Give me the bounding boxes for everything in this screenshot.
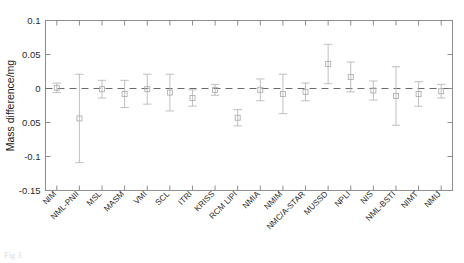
y-tick-label: 0 xyxy=(35,83,40,94)
x-tick-label: NIS xyxy=(359,189,375,205)
data-point-group xyxy=(279,74,287,113)
x-tick-label: NIM xyxy=(41,189,58,206)
data-point-group xyxy=(98,80,106,98)
data-point-group xyxy=(211,84,219,95)
y-tick-label: 0.05 xyxy=(22,117,41,128)
y-axis-title: Mass difference/mg xyxy=(4,60,16,152)
x-tick-label: NPLI xyxy=(333,190,352,209)
data-point-group xyxy=(324,44,332,83)
x-tick-label: MSL xyxy=(85,189,104,208)
x-tick-label: MUSSD xyxy=(302,189,329,216)
data-point-group xyxy=(256,79,264,101)
data-point-group xyxy=(301,83,309,101)
mass-difference-chart: 0.10.0500.05-0.1-0.15NIMNML-PNIIMSLMASMV… xyxy=(0,0,464,263)
data-point-group xyxy=(75,74,83,162)
data-point-group xyxy=(369,81,377,100)
data-point-group xyxy=(188,90,196,106)
x-tick-label: NMIA xyxy=(241,189,262,210)
data-point-group xyxy=(414,82,422,106)
y-tick-label: -0.1 xyxy=(24,151,40,162)
figure-caption: Fig 3 xyxy=(4,251,22,260)
x-tick-label: SCL xyxy=(154,189,172,207)
x-tick-label: MASM xyxy=(102,189,126,213)
data-point-group xyxy=(143,74,151,104)
x-tick-label: ITRI xyxy=(177,190,194,207)
y-tick-label: 0.05 xyxy=(22,49,41,60)
x-tick-label: NMIJ xyxy=(423,190,443,210)
data-point-group xyxy=(166,74,174,111)
figure-root: 0.10.0500.05-0.1-0.15NIMNML-PNIIMSLMASMV… xyxy=(0,0,464,263)
x-tick-label: VMI xyxy=(132,190,149,207)
y-tick-label: -0.15 xyxy=(19,185,41,196)
data-point-group xyxy=(392,67,400,125)
data-point-group xyxy=(437,84,445,98)
y-tick-label: 0.1 xyxy=(27,15,40,26)
data-point-group xyxy=(53,83,61,93)
x-tick-label: NIMT xyxy=(399,190,420,211)
plot-frame xyxy=(46,21,453,191)
data-point-group xyxy=(347,62,355,92)
data-point-group xyxy=(233,110,241,126)
data-point-group xyxy=(120,80,128,107)
